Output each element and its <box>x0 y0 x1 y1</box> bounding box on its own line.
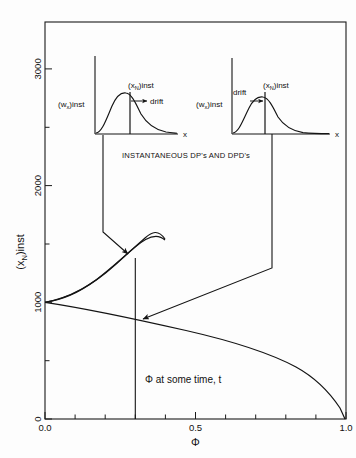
x-axis-title: Φ <box>191 436 200 448</box>
rising-branch-precise <box>45 232 165 302</box>
left-inset-marker-main: (x <box>128 81 135 90</box>
y-axis-title-tail: )inst <box>14 234 26 255</box>
right-inset-drift-label: drift <box>233 88 247 97</box>
y-axis-title: (xN)inst <box>14 234 29 269</box>
plot-frame <box>45 22 346 419</box>
x-ticklabel-1: 1.0 <box>339 422 352 433</box>
right-connector-path <box>143 134 272 319</box>
right-inset-marker-label: (xN)inst <box>263 81 290 91</box>
left-inset-x-label: x <box>183 130 187 139</box>
left-inset-drift-label: drift <box>150 97 164 106</box>
right-inset-weight-main: (w <box>196 100 205 109</box>
rising-branch-group <box>45 232 165 302</box>
right-inset-x-label: x <box>335 130 339 139</box>
left-inset-marker-tail: )inst <box>139 81 155 90</box>
x-tick-labels: 0.0 0.5 1.0 <box>38 422 352 433</box>
right-inset-distribution-curve <box>233 97 329 134</box>
main-curves <box>45 236 345 419</box>
left-inset-distribution-curve <box>96 93 177 133</box>
right-inset-marker-main: (x <box>263 81 270 90</box>
y-ticklabel-1000: 1000 <box>32 292 43 313</box>
left-inset-weight-tail: )inst <box>69 100 85 109</box>
inset-caption: INSTANTANEOUS DP's AND DPD's <box>122 151 250 160</box>
y-ticklabel-0: 0 <box>32 416 43 421</box>
left-inset-weight-label: (wx)inst <box>58 100 85 110</box>
left-inset-marker-label: (xN)inst <box>128 81 155 91</box>
y-tick-labels: 0 1000 2000 3000 <box>32 58 43 421</box>
right-inset: drift (xN)inst (wx)inst x <box>196 58 339 139</box>
left-inset-weight-main: (w <box>58 100 67 109</box>
figure-svg: 0 1000 2000 3000 (xN)inst 0.0 <box>0 0 356 458</box>
right-inset-weight-label: (wx)inst <box>196 100 223 110</box>
x-ticklabel-05: 0.5 <box>189 422 202 433</box>
figure-container: 0 1000 2000 3000 (xN)inst 0.0 <box>0 0 356 458</box>
right-inset-connector <box>143 134 272 319</box>
x-axis-ticks <box>45 412 346 419</box>
y-ticklabel-2000: 2000 <box>32 175 43 196</box>
rising-branch-curve <box>45 236 165 302</box>
x-ticklabel-0: 0.0 <box>38 422 51 433</box>
left-inset: drift (xN)inst (wx)inst x <box>58 56 187 139</box>
y-ticklabel-3000: 3000 <box>32 58 43 79</box>
svg-text:(xN)inst: (xN)inst <box>14 234 29 269</box>
falling-branch-curve <box>45 302 345 419</box>
right-inset-weight-tail: )inst <box>207 100 223 109</box>
right-inset-marker-tail: )inst <box>274 81 290 90</box>
y-axis-ticks <box>45 69 52 419</box>
time-annotation: Φ at some time, t <box>145 374 222 385</box>
